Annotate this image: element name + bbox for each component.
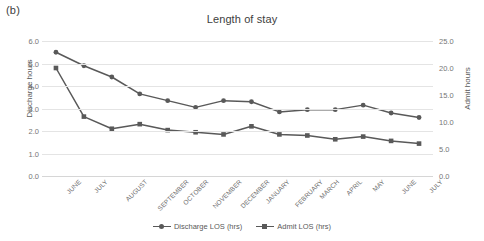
data-point <box>417 141 422 146</box>
data-point <box>361 103 366 108</box>
plot-area <box>42 41 433 176</box>
data-point <box>361 134 366 139</box>
chart-legend: Discharge LOS (hrs)Admit LOS (hrs) <box>0 222 484 231</box>
right-axis-ticks: 0.05.010.015.020.025.0 <box>439 41 465 176</box>
right-axis-title: Admit hours <box>463 44 472 134</box>
gridline <box>42 64 433 65</box>
x-axis-label: MAY <box>371 178 386 193</box>
data-point <box>249 124 254 129</box>
data-point <box>82 114 87 119</box>
circle-marker <box>153 223 171 231</box>
gridline <box>42 131 433 132</box>
data-point <box>249 99 254 104</box>
data-point <box>54 66 59 71</box>
data-point <box>221 98 226 103</box>
left-tick-label: 1.0 <box>29 149 39 158</box>
legend-label: Admit LOS (hrs) <box>277 222 331 231</box>
data-point <box>389 111 394 116</box>
data-point <box>137 91 142 96</box>
x-axis-label: APRIL <box>345 178 364 197</box>
gridline <box>42 109 433 110</box>
data-point <box>277 109 282 114</box>
legend-label: Discharge LOS (hrs) <box>174 222 242 231</box>
data-point <box>305 133 310 138</box>
legend-item[interactable]: Admit LOS (hrs) <box>256 222 331 231</box>
left-axis-title: Discharge hours <box>25 44 34 134</box>
x-axis-labels: JUNEJULYAUGUSTSEPTEMBEROCTOBERNOVEMBERDE… <box>42 178 433 214</box>
left-tick-label: 0.0 <box>29 172 39 181</box>
gridline <box>42 41 433 42</box>
right-tick-label: 20.0 <box>439 64 454 73</box>
x-axis-label: NOVEMBER <box>211 178 243 210</box>
x-axis-label: JULY <box>93 178 109 194</box>
data-point <box>221 132 226 137</box>
right-tick-label: 25.0 <box>439 37 454 46</box>
right-tick-label: 10.0 <box>439 118 454 127</box>
x-axis-label: AUGUST <box>124 178 149 203</box>
gridline <box>42 86 433 87</box>
x-axis-label: SEPTEMBER <box>156 178 190 212</box>
data-point <box>333 137 338 142</box>
data-point <box>277 132 282 137</box>
data-point <box>165 98 170 103</box>
x-axis-label: JULY <box>428 178 444 194</box>
chart-title: Length of stay <box>0 13 484 25</box>
right-tick-label: 15.0 <box>439 91 454 100</box>
right-tick-label: 5.0 <box>439 145 449 154</box>
x-axis-label: JUNE <box>400 178 417 195</box>
data-point <box>137 122 142 127</box>
gridline <box>42 154 433 155</box>
legend-item[interactable]: Discharge LOS (hrs) <box>153 222 242 231</box>
square-marker <box>256 223 274 231</box>
data-point <box>417 115 422 120</box>
x-axis-label: DECEMBER <box>239 178 271 210</box>
data-point <box>389 139 394 144</box>
data-point <box>54 50 59 55</box>
x-axis-label: JUNE <box>65 178 82 195</box>
chart-figure: (b) Length of stay 0.01.02.03.04.05.06.0… <box>0 0 484 241</box>
data-point <box>109 75 114 80</box>
